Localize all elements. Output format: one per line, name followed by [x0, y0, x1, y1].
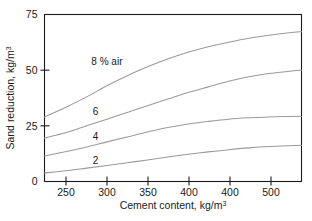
- axis-title-text: Cement content, kg/m: [120, 199, 223, 211]
- data-curves: [45, 32, 302, 173]
- y-tick-label-0: 0: [32, 175, 38, 187]
- y-tick-label-50: 50: [26, 64, 38, 76]
- axis-title-text: Sand reduction, kg/m: [4, 50, 16, 149]
- series-label-2: 2: [93, 155, 99, 166]
- series-label-8-air: 8 % air: [91, 56, 123, 67]
- x-tick-label-2: 350: [139, 186, 157, 198]
- x-tick-label-4: 400: [221, 186, 239, 198]
- x-tick-label-0: 250: [57, 186, 75, 198]
- x-axis-title: Cement content, kg/m3: [120, 199, 227, 211]
- y-tick-label-75: 75: [26, 8, 38, 20]
- curve-2: [45, 145, 302, 173]
- sand-reduction-line-chart: 0255075 250300350400400500 8 % air642 Ce…: [0, 0, 312, 221]
- x-tick-label-3: 400: [180, 186, 198, 198]
- curve-4: [45, 116, 302, 156]
- y-tick-label-25: 25: [26, 120, 38, 132]
- curve-6: [45, 70, 302, 138]
- x-tick-label-1: 300: [98, 186, 116, 198]
- x-axis-tick-labels: 250300350400400500: [57, 186, 280, 198]
- series-label-6: 6: [93, 106, 99, 117]
- x-tick-label-5: 500: [262, 186, 280, 198]
- y-axis-title: Sand reduction, kg/m3: [4, 46, 16, 149]
- chart-figure: 0255075 250300350400400500 8 % air642 Ce…: [0, 0, 312, 221]
- y-axis-tick-labels: 0255075: [26, 8, 38, 187]
- series-annotations: 8 % air642: [91, 56, 123, 166]
- axis-title-superscript: 3: [5, 46, 12, 50]
- axis-title-superscript: 3: [222, 200, 226, 207]
- series-label-4: 4: [93, 131, 99, 142]
